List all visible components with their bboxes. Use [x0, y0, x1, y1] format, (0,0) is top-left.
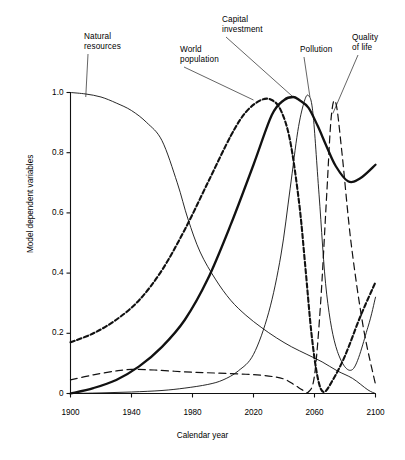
y-axis-title: Model dependent variables — [26, 154, 35, 252]
annotation-world-population: World population — [180, 45, 242, 65]
x-tick-label: 1940 — [119, 408, 145, 417]
x-axis-title: Calendar year — [0, 431, 405, 440]
annotation-pollution: Pollution — [300, 45, 348, 55]
leader-line — [304, 57, 310, 97]
x-tick-label: 2020 — [241, 408, 267, 417]
annotation-natural-resources: Natural resources — [84, 32, 142, 52]
y-tick-label: 0.8 — [52, 148, 63, 157]
figure-limits-to-growth-chart: 00.20.40.60.81.0190019401980202020602100… — [0, 0, 405, 460]
annotation-capital-investment: Capital investment — [222, 15, 284, 35]
y-tick-label: 0 — [59, 389, 64, 398]
x-tick-label: 2100 — [363, 408, 389, 417]
y-tick-label: 1.0 — [52, 88, 63, 97]
leader-line — [86, 54, 88, 97]
x-tick-label: 2060 — [302, 408, 328, 417]
leader-line — [184, 67, 254, 100]
y-tick-label: 0.4 — [52, 268, 63, 277]
x-tick-label: 1900 — [58, 408, 84, 417]
y-tick-label: 0.6 — [52, 208, 63, 217]
x-tick-label: 1980 — [180, 408, 206, 417]
y-tick-label: 0.2 — [52, 328, 63, 337]
data-curves — [71, 93, 376, 394]
annotation-quality-of-life: Quality of life — [352, 33, 396, 53]
